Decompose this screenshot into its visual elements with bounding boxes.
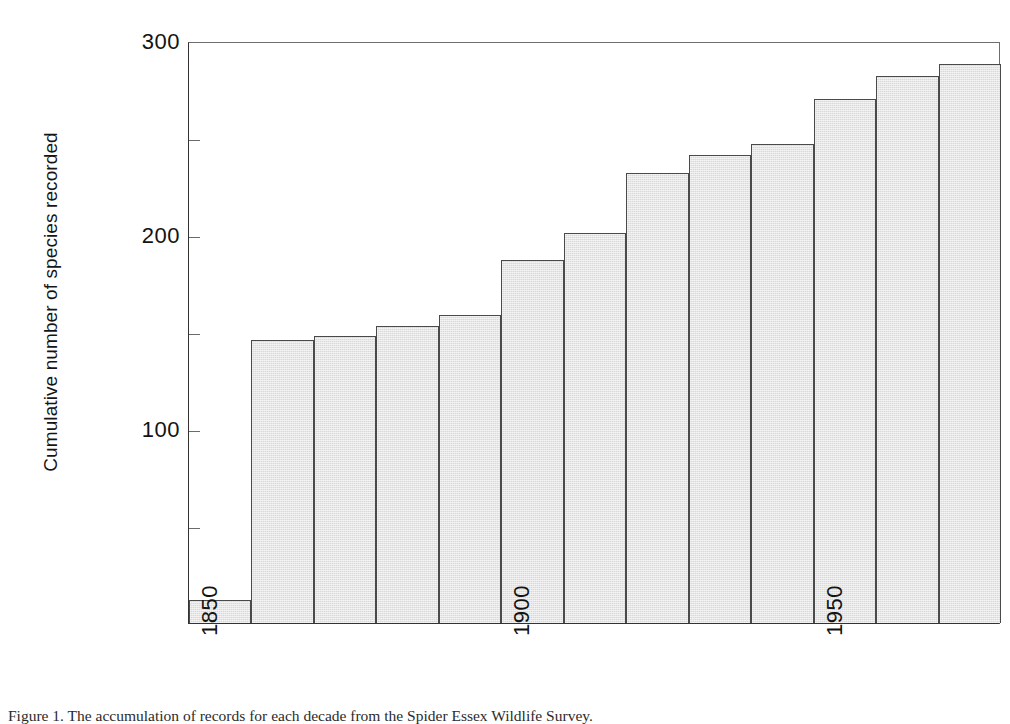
bar [689,155,751,623]
figure-caption: Figure 1. The accumulation of records fo… [8,706,1008,724]
plot-area [188,42,1000,624]
bar [314,336,376,623]
y-axis-tick-mark [189,140,200,141]
bar [439,315,501,623]
figure-container: Cumulative number of species recorded 10… [0,0,1010,724]
bar [564,233,626,623]
y-axis-tick-mark [189,334,200,335]
bar [939,64,1001,623]
bar [876,76,938,623]
y-axis-tick-mark [189,237,200,238]
bar [814,99,876,623]
y-axis-tick-mark [189,431,200,432]
x-axis-tick-label: 1900 [509,585,535,636]
bar [501,260,563,623]
y-axis-tick-labels: 100200300 [108,0,180,724]
x-axis-tick-label: 1950 [822,585,848,636]
bar [376,326,438,623]
bar [751,144,813,623]
bar [251,340,313,623]
y-axis-tick-label: 300 [108,29,180,55]
y-axis-tick-mark [189,528,200,529]
y-axis-tick-label: 200 [108,223,180,249]
figure-caption-text: Figure 1. The accumulation of records fo… [8,707,593,724]
x-axis-tick-label: 1850 [197,585,223,636]
y-axis-title: Cumulative number of species recorded [34,0,68,612]
bar [626,173,688,623]
bars-layer [189,43,999,623]
y-axis-tick-label: 100 [108,417,180,443]
